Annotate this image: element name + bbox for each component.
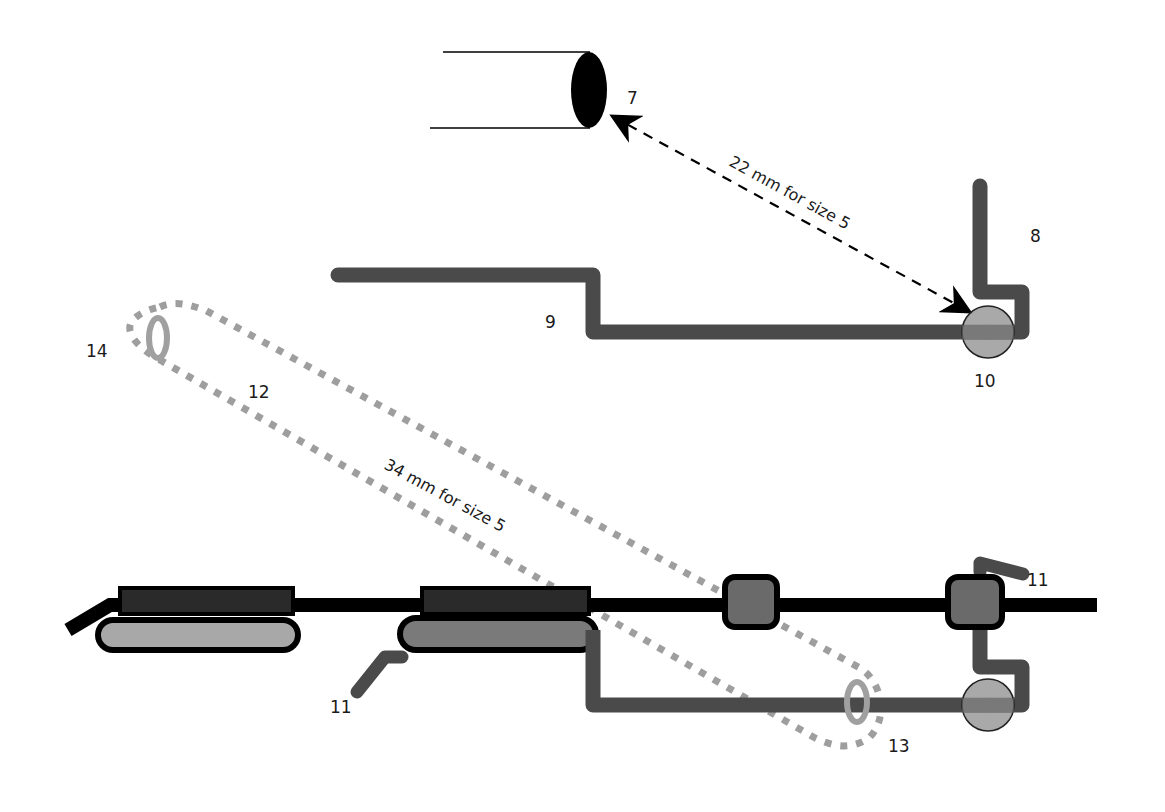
oval-ring-14 (149, 318, 167, 358)
wire-9 (338, 275, 990, 332)
label-13: 13 (888, 736, 910, 756)
technical-diagram: 7 22 mm for size 5 9 8 10 12 34 mm for s… (0, 0, 1165, 812)
middle-block (422, 588, 589, 614)
label-10: 10 (974, 371, 996, 391)
dimension-arrow-upper (612, 116, 970, 312)
square-clip-right (948, 577, 1002, 627)
cylinder-7 (430, 52, 607, 128)
square-clip-middle (725, 577, 777, 627)
cylinder-end-ellipse (571, 52, 607, 128)
dimension-label-upper: 22 mm for size 5 (726, 152, 854, 234)
left-pad (98, 620, 298, 650)
label-9: 9 (545, 312, 556, 332)
label-14: 14 (86, 341, 108, 361)
label-11-bottom: 11 (330, 697, 352, 717)
wire-stub-11-top (980, 563, 1023, 574)
wire-stub-11-bottom (357, 657, 402, 692)
wire-lower (593, 630, 990, 705)
label-11-top: 11 (1027, 570, 1049, 590)
label-12: 12 (248, 382, 270, 402)
left-block (120, 588, 293, 614)
circle-joint-lower-band (962, 698, 1014, 713)
label-7: 7 (627, 88, 638, 108)
middle-pad (400, 618, 596, 650)
circle-joint-band (962, 325, 1014, 340)
label-8: 8 (1030, 226, 1041, 246)
